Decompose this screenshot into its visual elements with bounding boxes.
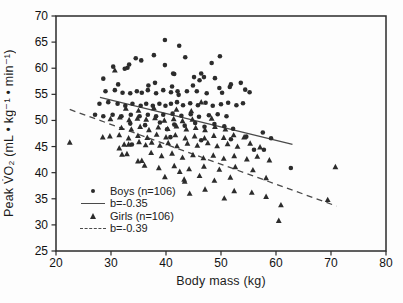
girls-point [100, 134, 106, 139]
boys-point [113, 88, 118, 93]
girls-point [124, 151, 130, 156]
boys-point [106, 100, 111, 105]
boys-point [163, 63, 168, 68]
girls-point [142, 162, 148, 167]
boys-point [185, 89, 190, 94]
girls-point [231, 132, 237, 137]
boys-point [133, 56, 138, 61]
boys-point [146, 83, 151, 88]
x-tick-label: 80 [379, 256, 393, 270]
y-tick-label: 70 [35, 9, 49, 23]
legend-label-boys-slope: b=-0.35 [110, 197, 148, 209]
boys-solid-line-icon [76, 203, 110, 204]
girls-point [257, 144, 263, 149]
girls-point [67, 139, 73, 144]
girls-point [216, 166, 222, 171]
boys-point [97, 101, 102, 106]
boys-point [252, 147, 257, 152]
y-tick-label: 65 [35, 35, 49, 49]
boys-point [199, 71, 204, 76]
boys-circle-marker-icon [76, 189, 110, 194]
girls-point [244, 156, 250, 161]
boys-point [115, 101, 120, 106]
boys-point [175, 100, 180, 105]
girls-point [192, 133, 198, 138]
boys-point [157, 101, 162, 106]
boys-point [218, 54, 223, 59]
boys-point [197, 114, 202, 119]
girls-point [221, 135, 227, 140]
boys-point [110, 112, 115, 117]
boys-point [170, 111, 175, 116]
girls-point [187, 190, 193, 195]
girls-point [180, 154, 186, 159]
girls-point [159, 153, 165, 158]
girls-point [156, 165, 162, 170]
boys-point [154, 91, 159, 96]
boys-point [120, 90, 125, 95]
legend-item-boys: Boys (n=106) [76, 185, 176, 197]
boys-point [122, 66, 127, 71]
girls-point [171, 163, 177, 168]
boys-point [243, 87, 248, 92]
boys-point [135, 89, 140, 94]
girls-point [177, 169, 183, 174]
boys-point [210, 104, 215, 109]
boys-point [181, 103, 186, 108]
girls-point [169, 150, 175, 155]
y-axis-title: Peak V̇O₂ (mL • kg⁻¹ • min⁻¹) [1, 16, 16, 251]
girls-point [267, 157, 273, 162]
girls-point [278, 202, 284, 207]
girls-point [249, 189, 255, 194]
boys-point [101, 76, 106, 81]
boys-point [215, 112, 220, 117]
girls-triangle-marker-icon [76, 213, 110, 219]
girls-point [126, 117, 132, 122]
girls-point [116, 132, 122, 137]
boys-point [219, 102, 224, 107]
girls-point [325, 197, 331, 202]
boys-point [197, 78, 202, 83]
x-tick-label: 60 [269, 256, 283, 270]
legend-item-girls: Girls (n=106) [76, 210, 176, 222]
girls-point [221, 155, 227, 160]
girls-point [126, 135, 132, 140]
girls-point [194, 142, 200, 147]
boys-point [168, 135, 173, 140]
boys-point [224, 114, 229, 119]
y-tick-label: 35 [35, 192, 49, 206]
boys-point [146, 112, 151, 117]
boys-point [152, 53, 157, 58]
girls-point [193, 125, 199, 130]
girls-point [202, 186, 208, 191]
girls-point [172, 132, 178, 137]
boys-point [220, 90, 225, 95]
boys-point [226, 100, 231, 105]
boys-point [128, 91, 133, 96]
boys-point [158, 120, 163, 125]
boys-point [144, 101, 149, 106]
girls-point [107, 133, 113, 138]
girls-point [227, 174, 233, 179]
boys-point [269, 136, 274, 141]
girls-point [165, 140, 171, 145]
girls-point [254, 153, 260, 158]
legend-item-girls-slope: b=-0.39 [76, 223, 176, 235]
boys-point [93, 112, 98, 117]
boys-point [129, 112, 134, 117]
boys-point [176, 93, 181, 98]
girls-point [198, 99, 204, 104]
boys-point [204, 91, 209, 96]
girls-point [136, 139, 142, 144]
girls-point [143, 142, 149, 147]
boys-point [234, 103, 239, 108]
legend-item-boys-slope: b=-0.35 [76, 198, 176, 210]
girls-point [188, 108, 194, 113]
girls-point [143, 116, 149, 121]
boys-point [209, 61, 214, 66]
y-tick-label: 55 [35, 87, 49, 101]
girls-point [214, 143, 220, 148]
boys-point [139, 58, 144, 63]
girls-dashed-line-icon [76, 228, 110, 229]
boys-point [247, 90, 252, 95]
